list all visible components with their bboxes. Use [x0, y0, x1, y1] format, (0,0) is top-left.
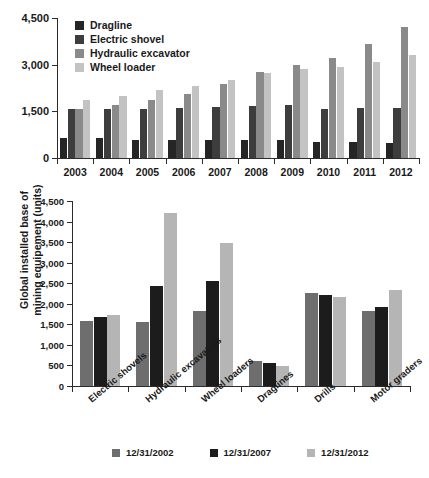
bar [68, 109, 75, 158]
y-tick [67, 263, 72, 264]
bar [256, 72, 263, 158]
x-tick [310, 158, 311, 164]
bar [349, 142, 356, 158]
y-tick [67, 283, 72, 284]
x-tick [274, 158, 275, 164]
legend-label-2007: 12/31/2007 [224, 447, 272, 458]
bar [375, 307, 388, 386]
x-tick [202, 158, 203, 164]
legend-label-electric-shovel: Electric shovel [90, 34, 164, 45]
bar [164, 213, 177, 386]
legend-label-2012: 12/31/2012 [321, 447, 369, 458]
bar [241, 140, 248, 158]
y-axis-title-line1: Global installed base of [18, 191, 30, 309]
y-tick-label: 1,000 [40, 339, 64, 350]
bar [337, 67, 344, 158]
bar [386, 143, 393, 158]
bar [140, 109, 147, 158]
y-tick [67, 345, 72, 346]
legend-swatch-hydraulic-excavator [75, 49, 84, 58]
bar [104, 109, 111, 158]
legend-label-2002: 12/31/2002 [126, 447, 174, 458]
x-tick [297, 386, 298, 392]
y-tick-label: 0 [59, 381, 64, 392]
y-tick-label: 3,000 [40, 257, 64, 268]
bar [184, 94, 191, 158]
y-tick [67, 324, 72, 325]
bar [176, 108, 183, 158]
legend-swatch-electric-shovel [75, 35, 84, 44]
y-tick-label: 4,500 [21, 12, 49, 24]
y-tick-label: 500 [48, 360, 64, 371]
bar [362, 311, 375, 386]
legend-swatch-wheel-loader [75, 63, 84, 72]
legend-swatch-2007 [210, 449, 218, 457]
y-tick-label: 3,000 [21, 59, 49, 71]
bar [228, 80, 235, 158]
x-tick [93, 158, 94, 164]
bar [300, 69, 307, 158]
bar [83, 100, 90, 158]
bar [148, 100, 155, 158]
x-tick [129, 158, 130, 164]
legend-label-dragline: Dragline [90, 20, 132, 31]
bar [168, 140, 175, 158]
y-tick-label: 4,000 [40, 216, 64, 227]
x-tick [166, 158, 167, 164]
bar [357, 108, 364, 158]
y-tick [52, 18, 57, 19]
y-tick-label: 4,500 [40, 196, 64, 207]
x-tick [410, 386, 411, 392]
x-tick [128, 386, 129, 392]
bar [329, 58, 336, 158]
bar [132, 140, 139, 158]
bar [401, 27, 408, 158]
bar [80, 321, 93, 386]
grouped-bar-chart-by-year: Dragline Electric shovel Hydraulic excav… [0, 0, 429, 185]
bar [192, 86, 199, 158]
bar [305, 293, 318, 386]
bar [205, 140, 212, 158]
legend-item-electric-shovel: Electric shovel [75, 34, 190, 45]
x-tick [238, 158, 239, 164]
legend-item-dragline: Dragline [75, 20, 190, 31]
bar [249, 106, 256, 158]
y-tick-label: 0 [43, 152, 49, 164]
bar [319, 295, 332, 386]
y-tick [67, 201, 72, 202]
x-tick [347, 158, 348, 164]
y-tick [67, 304, 72, 305]
y-tick [67, 242, 72, 243]
y-tick-label: 2,000 [40, 298, 64, 309]
bar [75, 109, 82, 158]
legend-swatch-dragline [75, 21, 84, 30]
legend-item-wheel-loader: Wheel loader [75, 62, 190, 73]
x-tick [354, 386, 355, 392]
y-tick-label: 1,500 [21, 105, 49, 117]
x-tick [72, 386, 73, 392]
legend-label-hydraulic-excavator: Hydraulic excavator [90, 48, 190, 59]
bar [119, 96, 126, 158]
bar [212, 107, 219, 158]
bar [333, 297, 346, 386]
bar [393, 108, 400, 158]
bottom-chart-plot-area [72, 201, 410, 386]
bar [60, 138, 67, 158]
bar [150, 286, 163, 386]
bar [264, 73, 271, 158]
x-tick [419, 158, 420, 164]
x-tick [383, 158, 384, 164]
bottom-chart-legend: 12/31/2002 12/31/2007 12/31/2012 [112, 447, 405, 458]
grouped-bar-chart-by-equipment: Global installed base of mining equipeme… [0, 185, 429, 478]
y-tick-label: 1,500 [40, 319, 64, 330]
y-tick [52, 65, 57, 66]
legend-item-2012: 12/31/2012 [307, 447, 369, 458]
y-tick-label: 2,500 [40, 278, 64, 289]
legend-swatch-2012 [307, 449, 315, 457]
legend-swatch-2002 [112, 449, 120, 457]
x-tick [241, 386, 242, 392]
y-tick [52, 111, 57, 112]
bar [321, 109, 328, 158]
legend-item-2002: 12/31/2002 [112, 447, 174, 458]
x-axis-category-label: 2012 [371, 166, 429, 178]
